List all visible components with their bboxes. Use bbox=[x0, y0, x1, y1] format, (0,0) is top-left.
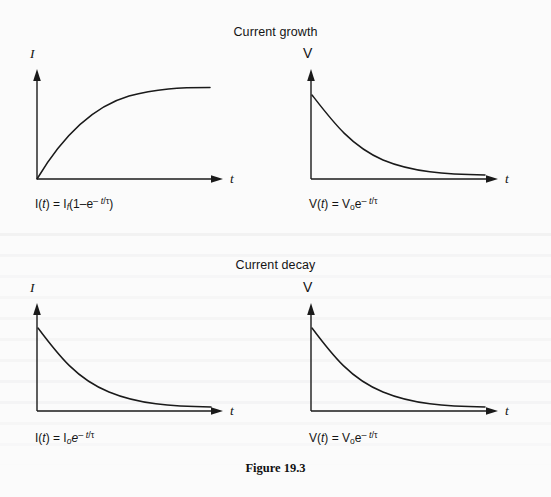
chart-bottom-right-voltage-decay: V t bbox=[299, 296, 514, 431]
formula-br-exp-minus: – bbox=[361, 430, 369, 440]
chart-top-right-svg bbox=[299, 62, 514, 197]
formula-bl-exp-tau: τ bbox=[91, 430, 95, 440]
y-axis-label-bottom-left: I bbox=[30, 280, 35, 296]
formula-bottom-left: I(t) = Ioe– t/τ bbox=[35, 431, 94, 446]
formula-tl-exponent: – t/τ bbox=[93, 196, 109, 206]
x-axis-label-bottom-left: t bbox=[230, 403, 234, 419]
chart-bottom-left-current-decay: I t bbox=[25, 296, 250, 431]
x-axis-top-left bbox=[37, 175, 223, 183]
formula-bl-exponent: – t/τ bbox=[78, 430, 94, 440]
formula-tl-body-close: ) bbox=[109, 197, 113, 211]
figure-caption: Figure 19.3 bbox=[0, 461, 551, 476]
formula-tl-exp-minus: – bbox=[93, 196, 101, 206]
y-axis-bottom-left bbox=[33, 303, 41, 411]
curve-current-growth bbox=[37, 88, 210, 180]
curve-voltage-decay-top bbox=[312, 95, 485, 175]
section-title-current-decay: Current decay bbox=[0, 258, 551, 272]
formula-tr-exp-minus: – bbox=[361, 196, 369, 206]
formula-tr-eq: ) = bbox=[324, 197, 342, 211]
x-axis-bottom-right bbox=[311, 407, 498, 415]
formula-br-amp: V bbox=[342, 431, 350, 445]
x-axis-bottom-left bbox=[37, 407, 223, 415]
y-axis-label-top-right: V bbox=[303, 45, 312, 61]
y-axis-label-top-left: I bbox=[30, 46, 35, 62]
x-axis-top-right bbox=[311, 175, 498, 183]
y-axis-top-right bbox=[307, 69, 315, 179]
y-axis-label-bottom-right: V bbox=[303, 279, 312, 295]
chart-bottom-left-svg bbox=[25, 296, 250, 431]
formula-bl-eq: ) = bbox=[46, 431, 64, 445]
curve-voltage-decay-bottom bbox=[312, 328, 485, 407]
formula-br-exponent: – t/τ bbox=[361, 430, 377, 440]
x-axis-label-top-left: t bbox=[230, 171, 234, 187]
chart-top-left-current-growth: I t bbox=[25, 62, 250, 197]
formula-tr-exp-tau: τ bbox=[374, 196, 378, 206]
formula-br-exp-tau: τ bbox=[374, 430, 378, 440]
formula-bl-exp-minus: – bbox=[78, 430, 86, 440]
formula-tl-eq: ) = bbox=[46, 197, 64, 211]
y-axis-bottom-right bbox=[307, 303, 315, 411]
x-axis-label-top-right: t bbox=[505, 171, 509, 187]
formula-top-left: I(t) = If(1–e– t/τ) bbox=[35, 197, 113, 212]
curve-current-decay bbox=[38, 328, 211, 407]
y-axis-top-left bbox=[33, 69, 41, 179]
formula-br-eq: ) = bbox=[324, 431, 342, 445]
formula-tr-exponent: – t/τ bbox=[361, 196, 377, 206]
x-axis-label-bottom-right: t bbox=[505, 403, 509, 419]
formula-tr-amp: V bbox=[342, 197, 350, 211]
formula-bottom-right: V(t) = Voe– t/τ bbox=[309, 431, 378, 446]
formula-top-right: V(t) = Voe– t/τ bbox=[309, 197, 378, 212]
chart-top-left-svg bbox=[25, 62, 250, 197]
section-title-current-growth: Current growth bbox=[0, 25, 551, 39]
formula-br-fn: V bbox=[309, 431, 317, 445]
formula-tr-fn: V bbox=[309, 197, 317, 211]
chart-top-right-voltage-decay: V t bbox=[299, 62, 514, 197]
chart-bottom-right-svg bbox=[299, 296, 514, 431]
figure-19-3: Current growth I t I(t) = If(1–e– t/τ) bbox=[0, 0, 551, 497]
formula-tl-body-open: (1–e bbox=[69, 197, 93, 211]
